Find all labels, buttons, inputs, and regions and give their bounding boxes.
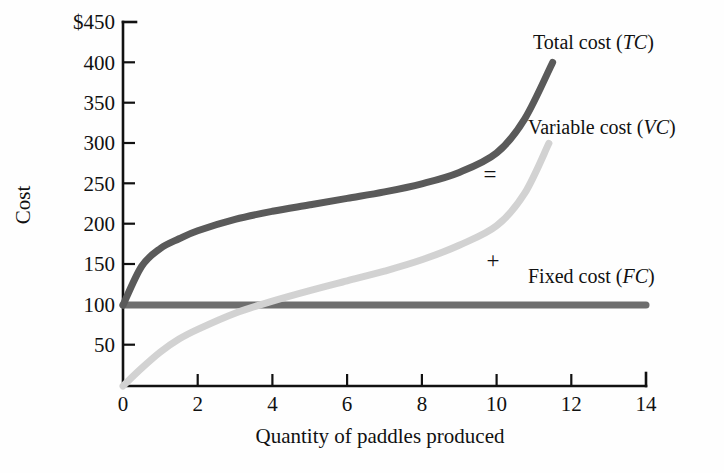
y-tick-label-450: $450 — [73, 10, 115, 34]
y-tick-label-150: 150 — [84, 252, 116, 276]
x-tick-label-14: 14 — [636, 392, 658, 416]
series-label-variable-cost-close: ) — [669, 116, 676, 139]
x-tick-label-6: 6 — [342, 392, 353, 416]
x-tick-label-12: 12 — [561, 392, 582, 416]
y-tick-label-50: 50 — [94, 333, 115, 357]
y-tick-label-100: 100 — [84, 293, 116, 317]
y-tick-label-350: 350 — [84, 91, 116, 115]
series-label-total-cost: Total cost (TC) — [533, 31, 654, 54]
cost-curves-chart: $450 400 350 300 250 200 150 100 50 0 2 … — [0, 0, 724, 473]
x-tick-label-8: 8 — [417, 392, 428, 416]
y-tick-label-250: 250 — [84, 172, 116, 196]
equals-symbol-annotation: = — [484, 162, 497, 187]
x-axis-title: Quantity of paddles produced — [255, 424, 505, 448]
y-tick-label-400: 400 — [84, 51, 116, 75]
series-label-fixed-cost-close: ) — [648, 265, 655, 288]
x-tick-label-10: 10 — [486, 392, 507, 416]
y-tick-label-200: 200 — [84, 212, 116, 236]
chart-figure: $450 400 350 300 250 200 150 100 50 0 2 … — [0, 0, 724, 473]
x-tick-label-4: 4 — [267, 392, 278, 416]
x-tick-label-2: 2 — [192, 392, 203, 416]
plus-symbol-annotation: + — [487, 248, 500, 273]
series-label-variable-cost-text: Variable cost ( — [528, 116, 644, 139]
series-label-total-cost-abbr: TC — [623, 31, 648, 53]
x-tick-label-0: 0 — [118, 392, 129, 416]
series-label-fixed-cost: Fixed cost (FC) — [528, 265, 655, 288]
y-axis-title: Cost — [11, 186, 35, 225]
series-label-fixed-cost-text: Fixed cost ( — [528, 265, 623, 288]
series-label-total-cost-close: ) — [647, 31, 654, 54]
series-label-fixed-cost-abbr: FC — [621, 265, 648, 287]
series-label-total-cost-text: Total cost ( — [533, 31, 623, 54]
series-label-variable-cost-abbr: VC — [644, 116, 670, 138]
series-label-variable-cost: Variable cost (VC) — [528, 116, 676, 139]
y-tick-label-300: 300 — [84, 131, 116, 155]
